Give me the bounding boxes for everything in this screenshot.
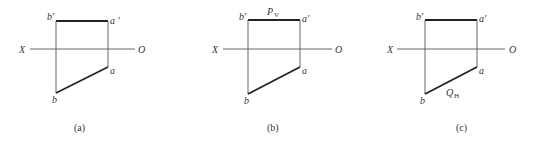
point-label-b: b bbox=[420, 95, 425, 106]
axis-label-x: X bbox=[211, 44, 219, 55]
trace-label-subscript: V bbox=[274, 11, 279, 19]
trace-label-pv: P V bbox=[266, 6, 279, 19]
trace-label-qh: Q H bbox=[446, 87, 459, 100]
point-label-a: a bbox=[302, 65, 307, 76]
point-label-b-prime: b′ bbox=[47, 11, 55, 22]
axis-label-x: X bbox=[386, 44, 394, 55]
point-label-a-prime: a′ bbox=[302, 13, 310, 24]
caption-a: (a) bbox=[74, 122, 85, 134]
panel-a: X O b′ a ′ a b (a) bbox=[18, 11, 145, 134]
point-label-b: b bbox=[244, 95, 249, 106]
point-label-b-prime: b′ bbox=[416, 11, 424, 22]
point-label-a: a bbox=[110, 65, 115, 76]
axis-label-o: O bbox=[138, 44, 145, 55]
line-a-b bbox=[248, 67, 300, 94]
caption-b: (b) bbox=[267, 122, 279, 134]
panel-c: X O b′ a′ a b Q H (c) bbox=[386, 11, 516, 134]
trace-label-main: P bbox=[266, 6, 273, 17]
panel-b: X O b′ a′ a b P V (b) bbox=[211, 6, 342, 134]
axis-label-o: O bbox=[509, 44, 516, 55]
line-a-b bbox=[56, 67, 108, 93]
axis-label-x: X bbox=[18, 44, 26, 55]
point-label-a-prime: a′ bbox=[479, 13, 487, 24]
axis-label-o: O bbox=[335, 44, 342, 55]
projection-diagram: X O b′ a ′ a b (a) X O b′ a′ a b P V (b)… bbox=[0, 0, 539, 142]
point-label-b: b bbox=[52, 94, 57, 105]
point-label-a: a bbox=[479, 65, 484, 76]
point-label-a-prime: a ′ bbox=[110, 15, 121, 26]
point-label-b-prime: b′ bbox=[239, 11, 247, 22]
trace-label-subscript: H bbox=[454, 92, 459, 100]
caption-c: (c) bbox=[456, 122, 467, 134]
trace-label-main: Q bbox=[446, 87, 454, 98]
